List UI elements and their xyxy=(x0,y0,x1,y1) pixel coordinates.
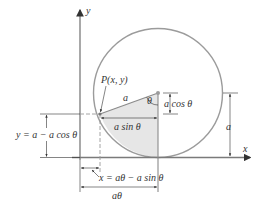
x-axis-label: x xyxy=(242,143,248,154)
x-equation-label: x = aθ − a sin θ xyxy=(98,172,164,183)
a-sin-theta-label: a sin θ xyxy=(114,121,141,132)
cycloid-diagram: y x θ a P(x, y) a sin θ a cos θ a y = a … xyxy=(0,0,255,204)
right-a-label: a xyxy=(226,121,231,132)
point-P-label: P(x, y) xyxy=(100,74,128,86)
radius-label: a xyxy=(123,92,128,103)
a-cos-theta-label: a cos θ xyxy=(164,98,192,109)
y-equation-label: y = a − a cos θ xyxy=(15,129,77,140)
x-equation-leader xyxy=(92,170,99,177)
theta-label: θ xyxy=(147,95,152,106)
point-P xyxy=(98,112,101,115)
y-axis-label: y xyxy=(85,5,91,16)
a-theta-label: aθ xyxy=(112,190,122,201)
center-point xyxy=(156,91,160,95)
point-P-leader xyxy=(101,86,107,112)
